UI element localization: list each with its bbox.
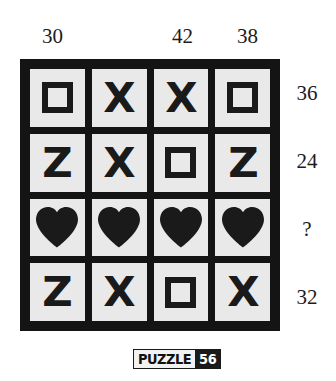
row-label-column: 36 24 ? 32: [284, 59, 330, 331]
grid-cell-r1c1: [28, 67, 87, 129]
grid-cell-r3c4: [213, 197, 272, 259]
row-label-1: 36: [284, 59, 330, 127]
grid-cell-r3c2: [90, 197, 149, 259]
puzzle-page: 30 42 38 XXZXZZXX 36 24 ? 32 PUZZLE 56: [0, 0, 336, 381]
column-header-row: 30 42 38: [20, 22, 280, 50]
grid-cell-r4c4: X: [213, 261, 272, 323]
square-outline-icon: [42, 82, 73, 113]
square-outline-icon: [165, 147, 196, 178]
letter-x-icon: X: [165, 78, 196, 118]
puzzle-footer-label: PUZZLE: [134, 349, 195, 368]
letter-z-icon: Z: [43, 272, 72, 312]
grid-cell-r2c2: X: [90, 132, 149, 194]
grid-cell-r3c3: [152, 197, 211, 259]
grid-cell-r2c1: Z: [28, 132, 87, 194]
heart-icon: [96, 206, 142, 248]
square-outline-icon: [227, 82, 258, 113]
letter-x-icon: X: [103, 272, 134, 312]
square-outline-icon: [165, 277, 196, 308]
letter-x-icon: X: [103, 78, 134, 118]
grid-cell-r4c2: X: [90, 261, 149, 323]
grid-cell-r1c3: X: [152, 67, 211, 129]
grid-cell-r4c3: [152, 261, 211, 323]
grid-cell-r4c1: Z: [28, 261, 87, 323]
puzzle-footer-banner: PUZZLE 56: [133, 349, 221, 369]
row-label-2: 24: [284, 127, 330, 195]
heart-icon: [220, 206, 266, 248]
row-label-3-unknown: ?: [284, 195, 330, 263]
puzzle-footer-number: 56: [195, 349, 220, 368]
puzzle-grid: XXZXZZXX: [20, 59, 280, 331]
grid-cell-r3c1: [28, 197, 87, 259]
column-header-2: [85, 22, 150, 50]
letter-x-icon: X: [103, 143, 134, 183]
grid-cell-r1c4: [213, 67, 272, 129]
puzzle-grid-inner: XXZXZZXX: [28, 67, 272, 323]
grid-cell-r2c3: [152, 132, 211, 194]
letter-z-icon: Z: [43, 143, 72, 183]
grid-cell-r1c2: X: [90, 67, 149, 129]
letter-x-icon: X: [227, 272, 258, 312]
grid-cell-r2c4: Z: [213, 132, 272, 194]
row-label-4: 32: [284, 263, 330, 331]
column-header-1: 30: [20, 22, 85, 50]
column-header-3: 42: [150, 22, 215, 50]
heart-icon: [158, 206, 204, 248]
heart-icon: [34, 206, 80, 248]
letter-z-icon: Z: [228, 143, 257, 183]
column-header-4: 38: [215, 22, 280, 50]
